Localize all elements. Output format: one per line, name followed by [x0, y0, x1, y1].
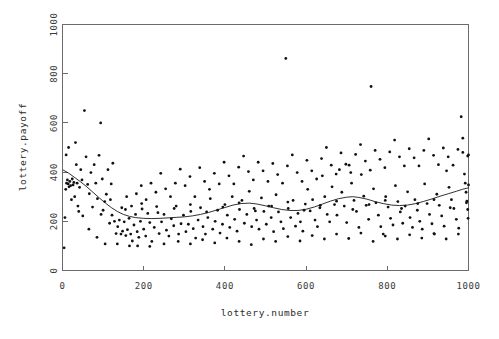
data-point — [291, 153, 294, 156]
data-point — [280, 220, 283, 223]
data-point — [111, 214, 114, 217]
data-point — [150, 240, 153, 243]
data-point — [372, 187, 375, 190]
data-point — [350, 182, 353, 185]
data-point — [461, 151, 464, 154]
data-point — [253, 207, 256, 210]
data-point — [81, 179, 84, 182]
data-point — [146, 212, 149, 215]
data-point — [422, 149, 425, 152]
data-point — [150, 182, 153, 185]
data-point — [214, 220, 217, 223]
data-point — [116, 225, 119, 228]
data-point — [431, 222, 434, 225]
data-point — [63, 246, 66, 249]
data-point — [90, 171, 93, 174]
x-axis-title: lottery.number — [221, 307, 309, 318]
data-point — [465, 201, 468, 204]
data-point — [254, 210, 257, 213]
data-point — [247, 170, 250, 173]
data-point — [364, 160, 367, 163]
data-point — [443, 225, 446, 228]
data-point — [164, 187, 167, 190]
data-point — [335, 173, 338, 176]
data-point — [336, 214, 339, 217]
data-point — [158, 232, 161, 235]
data-point — [345, 221, 348, 224]
data-point — [257, 161, 260, 164]
data-point — [359, 143, 362, 146]
plot-frame — [63, 25, 469, 271]
data-point — [320, 157, 323, 160]
data-point — [457, 227, 460, 230]
data-point — [360, 173, 363, 176]
data-point — [457, 233, 460, 236]
data-point — [411, 226, 414, 229]
data-point — [384, 199, 387, 202]
data-point — [400, 207, 403, 210]
data-point — [383, 166, 386, 169]
data-point — [189, 210, 192, 213]
data-point — [414, 198, 417, 201]
data-point — [270, 216, 273, 219]
data-point — [281, 182, 284, 185]
data-point — [100, 213, 103, 216]
data-point — [116, 243, 119, 246]
data-point — [120, 233, 123, 236]
data-point — [172, 224, 175, 227]
scatter-plot-figure: 02004006008001000 02004006008001000 lott… — [0, 0, 499, 339]
data-point — [286, 201, 289, 204]
data-point — [368, 203, 371, 206]
data-point — [335, 200, 338, 203]
data-point — [393, 139, 396, 142]
data-point — [88, 192, 91, 195]
data-point — [148, 245, 151, 248]
data-point — [74, 141, 77, 144]
data-point — [315, 178, 318, 181]
data-point — [250, 243, 253, 246]
data-point — [452, 164, 455, 167]
data-point — [370, 85, 373, 88]
data-point — [262, 210, 265, 213]
data-point — [399, 211, 402, 214]
data-point — [250, 225, 253, 228]
x-tick-label: 1000 — [456, 281, 480, 291]
data-point — [276, 173, 279, 176]
data-point — [144, 235, 147, 238]
data-point — [104, 243, 107, 246]
data-point — [140, 184, 143, 187]
data-point — [349, 171, 352, 174]
data-point — [360, 232, 363, 235]
data-point — [83, 109, 86, 112]
data-point — [403, 165, 406, 168]
data-point — [75, 163, 78, 166]
data-point — [140, 202, 143, 205]
data-point — [418, 220, 421, 223]
data-point — [128, 245, 131, 248]
data-point — [236, 230, 239, 233]
data-point — [428, 213, 431, 216]
data-point — [185, 230, 188, 233]
data-point — [177, 233, 180, 236]
data-point — [159, 172, 162, 175]
data-point — [211, 228, 214, 231]
data-point — [242, 155, 245, 158]
data-point — [86, 183, 89, 186]
data-point — [237, 166, 240, 169]
data-point — [72, 181, 75, 184]
data-point — [108, 222, 111, 225]
data-point — [209, 197, 212, 200]
data-point — [413, 156, 416, 159]
data-point — [198, 166, 201, 169]
data-point — [382, 233, 385, 236]
data-point — [129, 233, 132, 236]
data-point — [167, 235, 170, 238]
data-point — [120, 206, 123, 209]
data-point — [141, 208, 144, 211]
data-point — [77, 210, 80, 213]
data-point — [233, 218, 236, 221]
data-point — [365, 204, 368, 207]
data-point — [406, 190, 409, 193]
data-point — [137, 236, 140, 239]
y-tick-label: 600 — [49, 114, 59, 132]
